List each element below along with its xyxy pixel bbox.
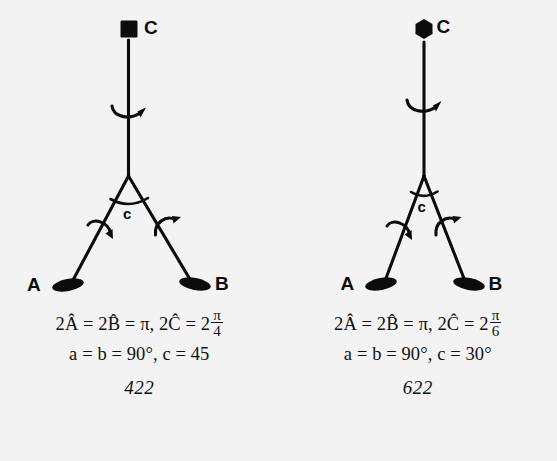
fraction-denominator: 6: [490, 322, 502, 338]
secondary-axis-line-a: [72, 176, 129, 282]
axis-label-b: B: [215, 274, 229, 293]
lens-2fold-axis-icon-a: [364, 275, 398, 293]
panel-422: C c A B 2Â = 2B̂ = π, 2Ĉ = 2π4 a = b =…: [0, 0, 279, 461]
fraction-numerator: π: [490, 307, 502, 322]
angle-label-c: c: [418, 199, 426, 214]
fraction-denominator: 4: [211, 322, 223, 338]
angle-arc-c: [411, 192, 438, 196]
secondary-axis-line-a: [385, 176, 424, 281]
hexagon-6fold-axis-icon: [415, 19, 432, 39]
lens-2fold-axis-icon-b: [452, 275, 486, 293]
caption-622: 2Â = 2B̂ = π, 2Ĉ = 2π6 a = b = 90°, c …: [279, 308, 557, 399]
fraction-numerator: π: [211, 307, 223, 322]
formula-angles-422-prefix: 2Â = 2B̂ = π, 2Ĉ = 2: [56, 314, 211, 334]
axis-label-b: B: [489, 274, 503, 293]
diagram-422-svg: [0, 0, 279, 308]
figure-page: C c A B 2Â = 2B̂ = π, 2Ĉ = 2π4 a = b =…: [0, 0, 557, 461]
fraction-pi-over-4: π4: [211, 307, 223, 339]
formula-angles-422: 2Â = 2B̂ = π, 2Ĉ = 2π4: [0, 308, 279, 340]
fraction-pi-over-6: π6: [490, 307, 502, 339]
square-4fold-axis-icon: [121, 21, 138, 38]
axis-label-a: A: [341, 274, 355, 293]
axis-label-c-principal: C: [437, 17, 451, 36]
axis-label-c-principal: C: [144, 18, 158, 37]
panel-622: C c A B 2Â = 2B̂ = π, 2Ĉ = 2π6 a = b =…: [279, 0, 557, 461]
diagram-622-svg: [279, 0, 557, 308]
formula-angles-622: 2Â = 2B̂ = π, 2Ĉ = 2π6: [279, 308, 557, 340]
group-label-622: 622: [279, 377, 557, 399]
formula-sides-622: a = b = 90°, c = 30°: [279, 340, 557, 368]
diagram-422: C c A B: [0, 0, 279, 308]
axis-label-a: A: [27, 275, 41, 294]
group-label-422: 422: [0, 377, 279, 399]
secondary-axis-line-b: [424, 176, 465, 281]
angle-label-c: c: [123, 206, 131, 221]
diagram-622: C c A B: [279, 0, 557, 308]
rotation-arrow-icon-left-leg: [387, 222, 412, 240]
secondary-axis-line-b: [129, 176, 192, 281]
formula-sides-422: a = b = 90°, c = 45: [0, 340, 279, 368]
caption-422: 2Â = 2B̂ = π, 2Ĉ = 2π4 a = b = 90°, c …: [0, 308, 279, 399]
lens-2fold-axis-icon-a: [51, 276, 85, 294]
formula-angles-622-prefix: 2Â = 2B̂ = π, 2Ĉ = 2: [334, 314, 489, 334]
lens-2fold-axis-icon-b: [178, 275, 212, 293]
